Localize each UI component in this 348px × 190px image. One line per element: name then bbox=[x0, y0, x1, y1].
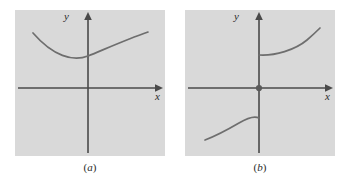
y-axis-label-b: y bbox=[234, 11, 239, 22]
figure-container: y x (a) y x (b) bbox=[0, 0, 348, 190]
x-axis-label-b: x bbox=[325, 91, 330, 102]
x-axis-label-a: x bbox=[155, 91, 160, 102]
graph-panel-a bbox=[15, 10, 165, 156]
graph-panel-b bbox=[185, 10, 335, 156]
y-axis-arrowhead-b bbox=[255, 12, 263, 20]
y-axis-arrowhead-a bbox=[84, 12, 92, 20]
curve-u-shaped bbox=[33, 32, 148, 58]
caption-b: (b) bbox=[185, 162, 335, 173]
origin-dot bbox=[256, 85, 262, 91]
curve-lower-left-branch bbox=[205, 117, 259, 140]
graph-svg-a bbox=[15, 10, 165, 156]
y-axis-label-a: y bbox=[64, 11, 69, 22]
graph-svg-b bbox=[185, 10, 335, 156]
caption-b-close: ) bbox=[263, 161, 267, 173]
caption-a: (a) bbox=[15, 162, 165, 173]
curve-upper-right-branch bbox=[259, 28, 320, 55]
caption-a-close: ) bbox=[93, 161, 97, 173]
